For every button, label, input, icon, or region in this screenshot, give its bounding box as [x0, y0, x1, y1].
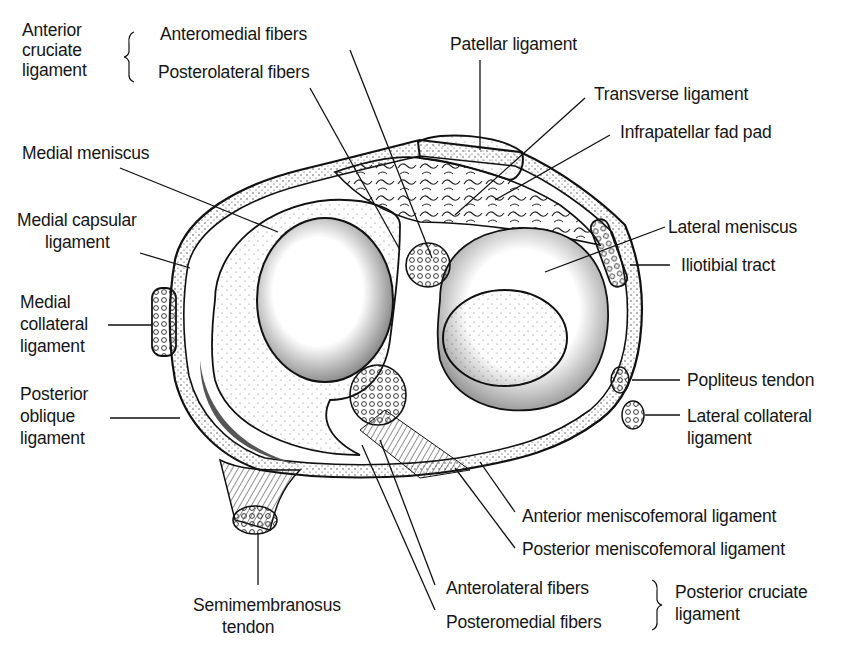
- label-lcl-line2: ligament: [687, 428, 752, 449]
- label-anteromedial-fibers: Anteromedial fibers: [160, 24, 307, 45]
- label-iliotibial-tract: Iliotibial tract: [681, 255, 775, 276]
- acl-title-line2: cruciate: [22, 40, 82, 61]
- label-transverse-ligament: Transverse ligament: [594, 84, 748, 105]
- label-posteromedial-fibers: Posteromedial fibers: [446, 612, 602, 633]
- acl-brace: [124, 32, 134, 82]
- label-popliteus-tendon: Popliteus tendon: [687, 370, 814, 391]
- label-posterolateral-fibers: Posterolateral fibers: [158, 62, 309, 83]
- lateral-tibial-plateau: [443, 290, 567, 386]
- label-pol-line1: Posterior: [20, 384, 88, 405]
- label-patellar-ligament: Patellar ligament: [450, 34, 577, 55]
- pcl-title-line1: Posterior cruciate: [675, 582, 808, 603]
- lateral-meniscus-shape: [438, 228, 608, 411]
- label-semimembranosus-line1: Semimembranosus: [193, 595, 341, 616]
- label-mcl-line2: collateral: [20, 314, 88, 335]
- pcl-title-line2: ligament: [675, 604, 740, 625]
- label-mcl-line1: Medial: [20, 292, 70, 313]
- label-lateral-meniscus: Lateral meniscus: [668, 217, 797, 238]
- label-mcl-line3: ligament: [20, 336, 85, 357]
- lateral-collateral-shape: [622, 401, 644, 429]
- label-anterior-meniscofemoral: Anterior meniscofemoral ligament: [522, 506, 776, 527]
- label-medial-capsular-line2: ligament: [45, 232, 110, 253]
- label-semimembranosus-line2: tendon: [222, 617, 274, 638]
- label-lcl-line1: Lateral collateral: [687, 406, 812, 427]
- label-posterior-meniscofemoral: Posterior meniscofemoral ligament: [522, 539, 785, 560]
- label-pol-line2: oblique: [20, 406, 75, 427]
- acl-title-line3: ligament: [22, 60, 87, 81]
- label-infrapatellar-fat-pad: Infrapatellar fad pad: [620, 122, 771, 143]
- medial-collateral-shape: [152, 288, 176, 356]
- label-medial-capsular-line1: Medial capsular: [17, 210, 137, 231]
- pcl-brace: [652, 580, 662, 630]
- semimembranosus-shape: [220, 460, 300, 534]
- label-pol-line3: ligament: [20, 428, 85, 449]
- popliteus-tendon-shape: [611, 367, 629, 393]
- label-medial-meniscus: Medial meniscus: [22, 143, 149, 164]
- medial-tibial-plateau: [257, 218, 393, 382]
- acl-title-line1: Anterior: [22, 20, 82, 41]
- label-anterolateral-fibers: Anterolateral fibers: [446, 578, 589, 599]
